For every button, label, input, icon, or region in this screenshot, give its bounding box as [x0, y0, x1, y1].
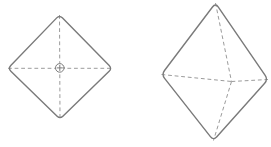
- crystal-figure: [0, 0, 271, 147]
- octahedron-perspective-view-outline: [163, 5, 266, 139]
- octahedron-perspective-view-dashed-edge-2: [232, 80, 269, 82]
- figure-svg: [0, 0, 271, 147]
- octahedron-perspective-view: [162, 3, 269, 141]
- octahedron-top-view: [8, 15, 112, 119]
- octahedron-perspective-view-dashed-edge-3: [214, 82, 232, 141]
- octahedron-perspective-view-dashed-edge-1: [162, 75, 232, 82]
